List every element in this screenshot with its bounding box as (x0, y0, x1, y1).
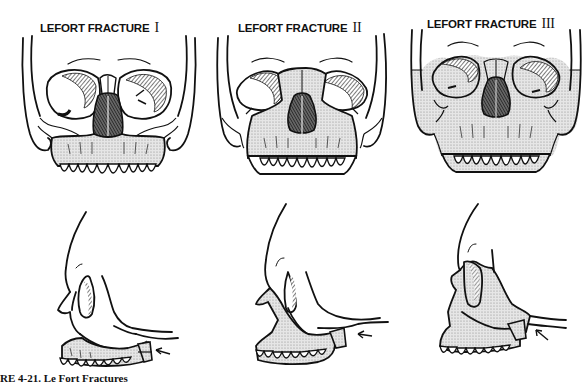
panel-3-numeral: III (541, 16, 554, 31)
panel-3-title-text: LEFORT FRACTURE (427, 18, 536, 30)
frontal-skull-lefort-1 (18, 34, 198, 184)
lateral-skull-lefort-3 (436, 200, 585, 370)
panel-2-numeral: II (352, 20, 361, 35)
panel-1-numeral: I (154, 20, 158, 35)
frontal-skull-lefort-3 (408, 30, 584, 182)
lateral-skull-lefort-1 (52, 208, 212, 368)
figure-caption: URE 4-21. Le Fort Fractures (0, 372, 128, 384)
panel-2-title-text: LEFORT FRACTURE (238, 22, 347, 34)
frontal-skull-lefort-2 (212, 34, 392, 184)
panel-1-title-text: LEFORT FRACTURE (40, 22, 149, 34)
lateral-skull-lefort-2 (248, 200, 408, 370)
